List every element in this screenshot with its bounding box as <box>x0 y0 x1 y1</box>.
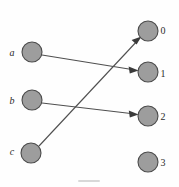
scan-artifact <box>78 180 100 182</box>
left-node-group <box>21 42 42 163</box>
edge-group <box>39 36 141 146</box>
node-b[interactable] <box>22 90 42 110</box>
arrowhead-a-to-1 <box>129 67 139 74</box>
node-label-3: 3 <box>161 157 166 168</box>
node-label-2: 2 <box>161 111 166 122</box>
left-label-group: a b c <box>10 47 15 157</box>
node-label-1: 1 <box>161 68 166 79</box>
node-3[interactable] <box>138 152 158 172</box>
diagram-canvas: a b c 0 1 2 3 <box>0 0 179 187</box>
edge-b-to-2 <box>42 103 135 114</box>
node-label-c: c <box>10 146 15 157</box>
node-1[interactable] <box>138 62 158 82</box>
node-label-0: 0 <box>161 25 166 36</box>
node-label-b: b <box>10 95 15 106</box>
edge-c-to-0 <box>39 39 139 146</box>
node-c[interactable] <box>21 143 41 163</box>
node-a[interactable] <box>22 42 42 62</box>
node-2[interactable] <box>138 106 158 126</box>
node-label-a: a <box>10 47 15 58</box>
edge-a-to-1 <box>42 55 135 70</box>
arrowhead-b-to-2 <box>129 110 139 117</box>
bipartite-mapping-figure: a b c 0 1 2 3 <box>0 0 179 187</box>
right-label-group: 0 1 2 3 <box>161 25 166 168</box>
right-node-group <box>138 21 158 172</box>
node-0[interactable] <box>138 21 158 41</box>
